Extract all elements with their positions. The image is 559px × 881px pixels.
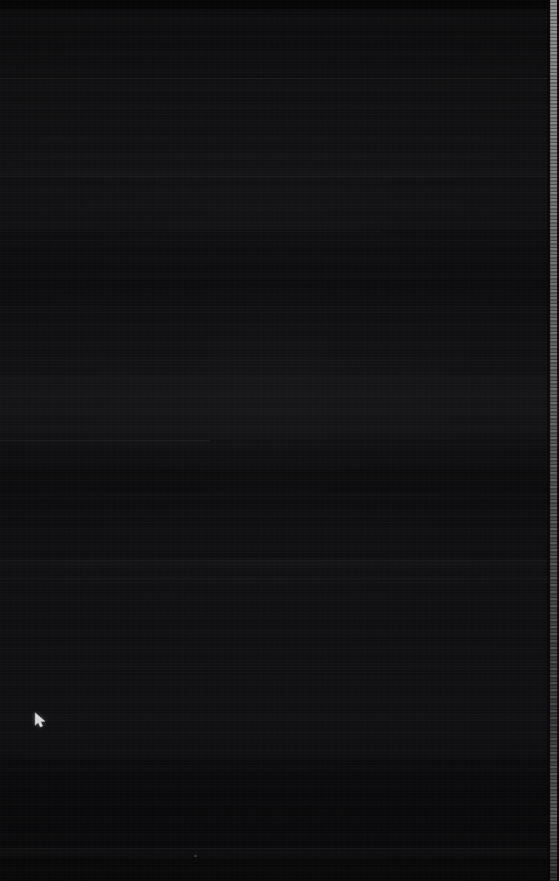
band-bottom	[0, 760, 559, 848]
separator-494	[0, 494, 559, 495]
faint-dot	[194, 855, 197, 857]
band-upper	[0, 30, 559, 78]
separator-578	[0, 578, 559, 579]
separator-440	[0, 440, 210, 441]
band-top-dark	[0, 0, 559, 9]
separator-78	[0, 78, 559, 79]
scanline-texture	[0, 0, 559, 881]
vignette-overlay	[0, 0, 559, 881]
separator-231	[0, 231, 380, 232]
band-mid	[0, 230, 559, 296]
separator-176	[0, 176, 559, 177]
noise-texture	[0, 0, 559, 881]
band-lower	[0, 470, 559, 558]
right-edge-scrollbar[interactable]	[550, 0, 557, 881]
separator-560	[0, 560, 559, 561]
band-lower-two	[0, 600, 559, 670]
band-foot	[0, 858, 559, 881]
separator-676	[0, 676, 559, 677]
mouse-cursor-icon	[34, 712, 47, 728]
separator-848	[0, 848, 559, 849]
band-mid-upper	[0, 104, 559, 176]
band-mid-lower	[0, 376, 559, 440]
screen-canvas[interactable]	[0, 0, 559, 881]
